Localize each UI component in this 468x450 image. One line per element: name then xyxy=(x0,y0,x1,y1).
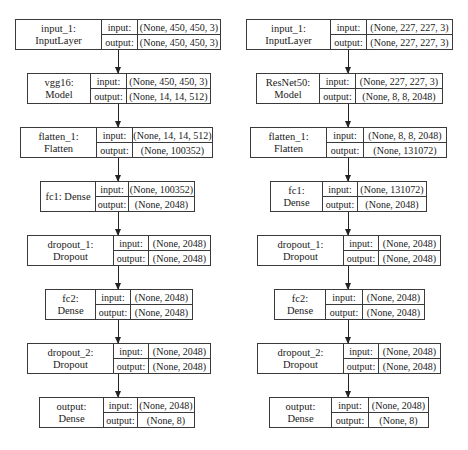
layer-node-fc1: fc1: Dense input:output: (None, 131072)(… xyxy=(270,181,427,212)
output-shape: (None, 2048) xyxy=(379,359,440,373)
layer-node-fc2: fc2: Dense input:output: (None, 2048)(No… xyxy=(274,289,425,320)
output-shape: (None, 2048) xyxy=(379,251,440,265)
layer-name: dropout_1: Dropout xyxy=(258,236,344,265)
output-shape: (None, 227, 227, 3) xyxy=(367,35,452,49)
input-label: input: xyxy=(102,20,137,35)
input-label: input: xyxy=(323,182,357,197)
input-label: input: xyxy=(327,128,363,143)
output-shape: (None, 2048) xyxy=(149,359,210,373)
output-shape: (None, 2048) xyxy=(149,251,210,265)
input-shape: (None, 227, 227, 3) xyxy=(356,74,442,89)
layer-name: fc1: Dense xyxy=(41,182,96,211)
output-shape: (None, 2048) xyxy=(363,305,424,319)
output-shape: (None, 14, 14, 512) xyxy=(127,89,210,103)
layer-node-output: output: Dense input:output: (None, 2048)… xyxy=(269,397,429,428)
arrow-icon xyxy=(118,50,119,73)
output-shape: (None, 2048) xyxy=(131,305,192,319)
input-shape: (None, 2048) xyxy=(149,344,210,359)
layer-name: fc1: Dense xyxy=(271,182,323,211)
input-shape: (None, 2048) xyxy=(131,290,192,305)
layer-node-fc1: fc1: Dense input:output: (None, 100352)(… xyxy=(40,181,195,212)
input-label: input: xyxy=(344,344,378,359)
arrow-icon xyxy=(118,158,119,181)
input-shape: (None, 100352) xyxy=(129,182,194,197)
layer-node-dropout-1: dropout_1: Dropout input:output: (None, … xyxy=(27,235,211,266)
output-label: output: xyxy=(344,251,378,265)
output-shape: (None, 8, 8, 2048) xyxy=(356,89,442,103)
arrow-icon xyxy=(348,50,349,73)
input-shape: (None, 2048) xyxy=(369,398,428,413)
output-label: output: xyxy=(96,197,128,211)
arrow-icon xyxy=(348,158,349,181)
arrow-icon xyxy=(348,374,349,397)
layer-node-dropout-2: dropout_2: Dropout input:output: (None, … xyxy=(257,343,441,374)
input-label: input: xyxy=(344,236,378,251)
output-label: output: xyxy=(327,143,363,157)
layer-name: dropout_2: Dropout xyxy=(258,344,344,373)
layer-node-flatten-1: flatten_1: Flatten input:output: (None, … xyxy=(20,127,213,158)
layer-node-vgg16: vgg16: Model input:output: (None, 450, 4… xyxy=(27,73,211,104)
input-shape: (None, 8, 8, 2048) xyxy=(364,128,446,143)
input-shape: (None, 450, 450, 3) xyxy=(138,20,220,35)
output-label: output: xyxy=(320,89,355,103)
input-shape: (None, 227, 227, 3) xyxy=(367,20,452,35)
output-shape: (None, 100352) xyxy=(133,143,212,157)
input-shape: (None, 131072) xyxy=(358,182,426,197)
input-label: input: xyxy=(96,182,128,197)
layer-name: output: Dense xyxy=(270,398,332,427)
output-label: output: xyxy=(344,359,378,373)
layer-node-output: output: Dense input:output: (None, 2048)… xyxy=(39,397,195,428)
arrow-icon xyxy=(118,104,119,127)
output-label: output: xyxy=(114,359,148,373)
input-label: input: xyxy=(104,398,137,413)
arrow-icon xyxy=(118,212,119,235)
input-shape: (None, 2048) xyxy=(149,236,210,251)
input-label: input: xyxy=(331,20,366,35)
input-label: input: xyxy=(97,128,132,143)
layer-node-input-1: input_1: InputLayer input:output: (None,… xyxy=(246,19,453,50)
input-shape: (None, 2048) xyxy=(138,398,194,413)
output-label: output: xyxy=(332,413,368,427)
output-label: output: xyxy=(97,143,132,157)
input-shape: (None, 2048) xyxy=(379,236,440,251)
layer-node-flatten-1: flatten_1: Flatten input:output: (None, … xyxy=(250,127,447,158)
layer-name: flatten_1: Flatten xyxy=(251,128,327,157)
input-label: input: xyxy=(114,344,148,359)
layer-name: input_1: InputLayer xyxy=(247,20,331,49)
output-shape: (None, 131072) xyxy=(364,143,446,157)
output-label: output: xyxy=(91,89,126,103)
layer-name: fc2: Dense xyxy=(275,290,326,319)
arrow-icon xyxy=(118,320,119,343)
arrow-icon xyxy=(118,266,119,289)
layer-name: ResNet50: Model xyxy=(257,74,320,103)
layer-node-input-1: input_1: InputLayer input:output: (None,… xyxy=(15,19,221,50)
output-label: output: xyxy=(104,413,137,427)
input-shape: (None, 2048) xyxy=(363,290,424,305)
output-shape: (None, 8) xyxy=(369,413,428,427)
layer-name: dropout_1: Dropout xyxy=(28,236,114,265)
arrow-icon xyxy=(348,212,349,235)
input-label: input: xyxy=(332,398,368,413)
arrow-icon xyxy=(348,320,349,343)
input-label: input: xyxy=(326,290,362,305)
output-shape: (None, 2048) xyxy=(129,197,194,211)
layer-name: fc2: Dense xyxy=(46,290,96,319)
output-shape: (None, 450, 450, 3) xyxy=(138,35,220,49)
input-shape: (None, 450, 450, 3) xyxy=(127,74,210,89)
output-label: output: xyxy=(323,197,357,211)
output-shape: (None, 8) xyxy=(138,413,194,427)
output-label: output: xyxy=(102,35,137,49)
input-label: input: xyxy=(96,290,130,305)
output-label: output: xyxy=(326,305,362,319)
arrow-icon xyxy=(118,374,119,397)
layer-node-fc2: fc2: Dense input:output: (None, 2048)(No… xyxy=(45,289,193,320)
layer-name: dropout_2: Dropout xyxy=(28,344,114,373)
layer-name: input_1: InputLayer xyxy=(16,20,102,49)
arrow-icon xyxy=(348,104,349,127)
output-label: output: xyxy=(114,251,148,265)
output-shape: (None, 2048) xyxy=(358,197,426,211)
output-label: output: xyxy=(96,305,130,319)
layer-node-dropout-1: dropout_1: Dropout input:output: (None, … xyxy=(257,235,441,266)
layer-node-resnet50: ResNet50: Model input:output: (None, 227… xyxy=(256,73,443,104)
arrow-icon xyxy=(348,266,349,289)
